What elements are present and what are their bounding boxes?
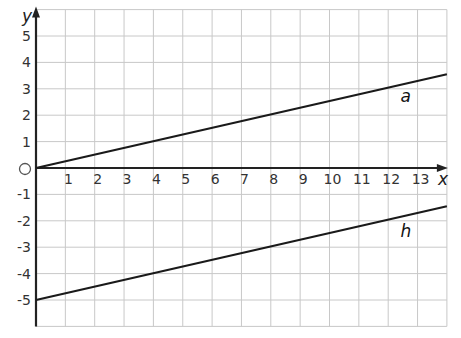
y-tick-label: 2: [22, 107, 31, 123]
y-tick-label: 3: [22, 81, 31, 97]
coordinate-plane: yx1234567891011121354321-1-2-3-4-5 ah: [0, 0, 461, 338]
y-tick-label: -5: [17, 292, 31, 308]
y-tick-label: 4: [22, 54, 31, 70]
y-axis-arrow-icon: [32, 7, 40, 18]
y-tick-label: 1: [22, 134, 31, 150]
x-tick-label: 6: [211, 171, 220, 187]
line-label-a: a: [401, 86, 411, 106]
x-tick-label: 8: [269, 171, 278, 187]
x-tick-label: 13: [412, 171, 430, 187]
y-tick-label: 5: [22, 28, 31, 44]
y-tick-label: -2: [17, 213, 31, 229]
x-tick-label: 4: [152, 171, 161, 187]
x-tick-label: 9: [299, 171, 308, 187]
x-axis-label: x: [437, 169, 449, 189]
x-tick-label: 2: [93, 171, 102, 187]
y-tick-label: -4: [17, 266, 31, 282]
x-tick-label: 7: [240, 171, 249, 187]
y-axis-label: y: [21, 6, 33, 26]
origin-marker-icon: [20, 164, 31, 175]
x-tick-label: 1: [64, 171, 73, 187]
x-tick-label: 3: [123, 171, 132, 187]
x-tick-label: 5: [181, 171, 190, 187]
line-label-h: h: [400, 221, 411, 241]
y-tick-label: -3: [17, 239, 31, 255]
x-tick-label: 12: [382, 171, 400, 187]
x-tick-label: 10: [324, 171, 342, 187]
y-tick-label: -1: [17, 186, 31, 202]
x-tick-label: 11: [353, 171, 371, 187]
